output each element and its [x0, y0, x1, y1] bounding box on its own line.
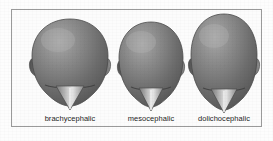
figure-frame: brachycephalic [11, 9, 262, 127]
cranium-highlight [41, 28, 75, 52]
figure-root: brachycephalic [0, 0, 273, 141]
head-shapes-row: brachycephalic [12, 10, 261, 126]
head-label-dolichocephalic: dolichocephalic [172, 114, 273, 123]
head-figure-dolichocephalic: dolichocephalic [172, 10, 273, 124]
skull-front-view-dolichocephalic [172, 10, 273, 114]
cranium-highlight [199, 24, 229, 48]
cranium-highlight [126, 31, 156, 53]
